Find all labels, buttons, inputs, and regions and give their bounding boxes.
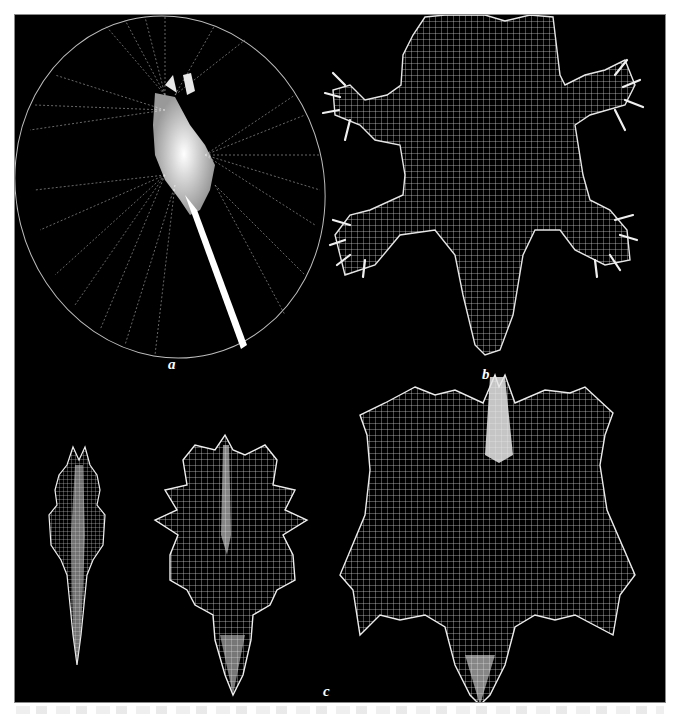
panel-b-graphic bbox=[323, 15, 643, 355]
panel-c-large-graphic bbox=[340, 375, 635, 703]
figure-graphics bbox=[15, 15, 666, 703]
panel-label-c: c bbox=[323, 684, 330, 699]
panel-c-narrow-graphic bbox=[49, 447, 105, 665]
panel-a-graphic bbox=[15, 15, 361, 391]
panel-label-a: a bbox=[168, 357, 176, 372]
truncated-caption bbox=[16, 706, 664, 714]
panel-label-b: b bbox=[482, 367, 490, 382]
figure-panel: a b c bbox=[14, 14, 666, 703]
panel-c-leaf-graphic bbox=[155, 435, 307, 695]
